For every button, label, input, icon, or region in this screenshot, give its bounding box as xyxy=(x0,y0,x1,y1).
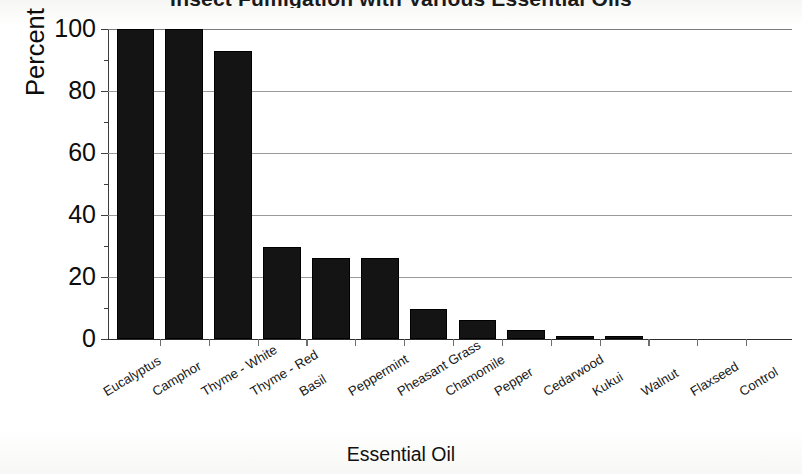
bar-pheasant-grass xyxy=(410,309,448,338)
gridline-60 xyxy=(108,153,792,154)
bar-camphor xyxy=(165,29,203,339)
bar-basil xyxy=(312,258,350,339)
bar-peppermint xyxy=(361,258,399,339)
gridline-100 xyxy=(108,29,792,30)
bar-eucalyptus xyxy=(117,29,155,339)
y-tick-minor-90 xyxy=(104,60,109,61)
bar-kukui xyxy=(605,336,643,338)
x-label-walnut: Walnut xyxy=(639,366,681,399)
gridline-80 xyxy=(108,91,792,92)
y-tick-minor-70 xyxy=(104,122,109,123)
gridline-20 xyxy=(108,277,792,278)
x-axis-category-labels: EucalyptusCamphorThyme - WhiteThyme - Re… xyxy=(108,341,792,441)
y-tick-label-40: 40 xyxy=(68,202,96,227)
x-label-kukui: Kukui xyxy=(590,370,625,399)
y-axis-line xyxy=(108,29,109,340)
x-label-control: Control xyxy=(737,365,781,399)
bar-cedarwood xyxy=(556,336,594,338)
bar-thyme-red xyxy=(263,247,301,338)
gridline-40 xyxy=(108,215,792,216)
y-tick-20 xyxy=(101,277,108,278)
y-axis-title: Percent Mortality xyxy=(22,0,48,96)
y-tick-100 xyxy=(101,29,108,30)
y-tick-minor-30 xyxy=(104,246,109,247)
y-tick-label-20: 20 xyxy=(68,264,96,289)
bar-thyme-white xyxy=(214,51,252,339)
x-label-flaxseed: Flaxseed xyxy=(688,359,741,399)
y-axis-title-wrapper: Percent Mortality xyxy=(22,96,23,97)
bar-chamomile xyxy=(459,320,497,339)
y-tick-40 xyxy=(101,215,108,216)
y-tick-label-100: 100 xyxy=(54,16,96,41)
x-axis-line xyxy=(108,339,792,341)
y-tick-label-80: 80 xyxy=(68,78,96,103)
plot-area: 020406080100 xyxy=(108,29,792,340)
chart-title: Insect Fumigation with Various Essential… xyxy=(0,0,802,8)
x-axis-title: Essential Oil xyxy=(0,443,802,466)
x-label-basil: Basil xyxy=(297,372,329,399)
y-tick-label-60: 60 xyxy=(68,140,96,165)
bar-pepper xyxy=(507,330,545,338)
y-tick-label-0: 0 xyxy=(82,326,96,351)
y-tick-80 xyxy=(101,91,108,92)
y-tick-minor-10 xyxy=(104,308,109,309)
x-label-pepper: Pepper xyxy=(492,365,536,399)
y-tick-0 xyxy=(101,339,108,340)
y-tick-60 xyxy=(101,153,108,154)
y-tick-minor-50 xyxy=(104,184,109,185)
